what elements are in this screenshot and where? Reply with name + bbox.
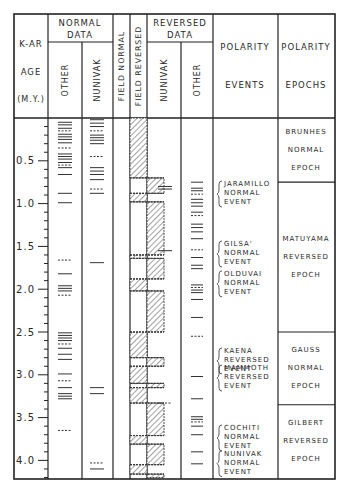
field-normal-interval [130, 366, 147, 383]
polarity-event: COCHITINORMALEVENT [217, 424, 260, 451]
svg-text:NUNIVAK: NUNIVAK [93, 59, 102, 102]
epoch-label: REVERSED [283, 437, 329, 445]
field-reversed-header: FIELD REVERSED [134, 26, 143, 106]
svg-text:EVENTS: EVENTS [225, 80, 265, 90]
event-label: MAMMOTH [224, 364, 269, 372]
event-label: REVERSED [224, 373, 270, 381]
polarity-event: JARAMILLONORMALEVENT [217, 180, 270, 207]
event-label: NUNIVAK [224, 450, 262, 458]
event-label: NORMAL [224, 459, 260, 467]
field-reversed-interval [147, 358, 164, 367]
svg-text:K-AR: K-AR [19, 39, 42, 49]
polarity-timescale-diagram: K-AR AGE (M.Y.) NORMAL DATA OTHER NUNIVA… [0, 0, 350, 495]
polarity-epochs: BRUNHESNORMALEPOCHMATUYAMAREVERSEDEPOCHG… [278, 128, 335, 463]
field-reversed-interval [147, 383, 164, 387]
field-reversed-interval [147, 178, 164, 193]
axis-tick-label: 1.0 [16, 198, 35, 209]
field-reversed-interval [147, 444, 164, 465]
brace-icon [217, 181, 222, 207]
event-label: EVENT [224, 288, 252, 296]
axis-tick-label: 3.5 [16, 412, 35, 423]
field-normal-interval [130, 255, 147, 258]
brace-icon [217, 425, 222, 451]
polarity-event: OLDUVAINORMALEVENT [217, 270, 262, 297]
polarity-events: JARAMILLONORMALEVENTGILSA'NORMALEVENTOLD… [217, 180, 270, 477]
brace-icon [217, 348, 222, 374]
polarity-event: GILSA'NORMALEVENT [217, 240, 260, 267]
polarity-epochs-header: POLARITY EPOCHS [281, 42, 330, 90]
field-reversed-interval [147, 474, 164, 477]
brace-icon [217, 365, 222, 391]
polarity-epoch: GILBERTREVERSEDEPOCH [283, 419, 329, 463]
epoch-label: GAUSS [291, 346, 320, 354]
brace-icon [217, 271, 222, 297]
age-column-header: K-AR AGE (M.Y.) [17, 39, 45, 104]
event-label: EVENT [224, 382, 252, 390]
svg-text:DATA: DATA [167, 30, 193, 40]
axis-tick-label: 2.0 [16, 284, 35, 295]
svg-text:OTHER: OTHER [61, 64, 70, 97]
svg-text:AGE: AGE [21, 67, 42, 77]
axis-tick-label: 3.0 [16, 369, 35, 380]
field-normal-header: FIELD NORMAL [117, 31, 126, 101]
field-normal-interval [130, 388, 147, 403]
epoch-label: EPOCH [291, 382, 320, 390]
axis-tick-label: 2.5 [16, 327, 35, 338]
field-reversed-interval [147, 291, 164, 332]
field-reversed-interval [147, 258, 164, 279]
event-label: COCHITI [224, 424, 260, 432]
age-axis: 0.51.01.52.02.53.03.54.0 [16, 127, 48, 478]
polarity-event: NUNIVAKNORMALEVENT [217, 450, 262, 477]
svg-text:POLARITY: POLARITY [220, 42, 269, 52]
svg-text:NORMAL: NORMAL [59, 18, 102, 28]
event-label: REVERSED [224, 356, 270, 364]
polarity-events-header: POLARITY EVENTS [220, 42, 269, 90]
epoch-label: GILBERT [288, 419, 324, 427]
axis-tick-label: 1.5 [16, 241, 35, 252]
epoch-label: NORMAL [288, 364, 324, 372]
polarity-event: MAMMOTHREVERSEDEVENT [217, 364, 270, 391]
field-normal-interval [130, 193, 147, 202]
axis-tick-label: 4.0 [16, 455, 35, 466]
field-polarity-bars [130, 118, 164, 478]
polarity-epoch: GAUSSNORMALEPOCH [288, 346, 324, 390]
polarity-epoch: BRUNHESNORMALEPOCH [285, 128, 326, 172]
epoch-label: REVERSED [283, 253, 329, 261]
event-label: NORMAL [224, 189, 260, 197]
event-label: NORMAL [224, 279, 260, 287]
event-label: GILSA' [224, 240, 253, 248]
epoch-label: MATUYAMA [282, 235, 329, 243]
field-reversed-interval [147, 202, 164, 255]
epoch-label: EPOCH [291, 271, 320, 279]
event-label: NORMAL [224, 433, 260, 441]
event-label: EVENT [224, 468, 252, 476]
axis-tick-label: 0.5 [16, 155, 35, 166]
polarity-epoch: MATUYAMAREVERSEDEPOCH [282, 235, 329, 279]
normal-data-header: NORMAL DATA OTHER NUNIVAK [59, 18, 102, 101]
brace-icon [217, 451, 222, 477]
svg-text:POLARITY: POLARITY [281, 42, 330, 52]
field-normal-interval [130, 279, 147, 291]
svg-text:OTHER: OTHER [193, 64, 202, 97]
field-reversed-interval [147, 403, 164, 436]
event-label: KAENA [224, 347, 253, 355]
epoch-label: EPOCH [291, 164, 320, 172]
event-label: JARAMILLO [223, 180, 270, 188]
epoch-label: BRUNHES [285, 128, 326, 136]
reversed-data-header: REVERSED DATA NUNIVAK OTHER [153, 18, 207, 101]
svg-text:NUNIVAK: NUNIVAK [160, 59, 169, 102]
field-normal-interval [130, 118, 147, 178]
event-label: EVENT [224, 198, 252, 206]
svg-text:DATA: DATA [67, 30, 93, 40]
epoch-label: NORMAL [288, 146, 324, 154]
epoch-label: EPOCH [291, 455, 320, 463]
event-label: NORMAL [224, 249, 260, 257]
field-normal-interval [130, 465, 147, 474]
svg-text:EPOCHS: EPOCHS [286, 80, 327, 90]
field-normal-interval [130, 332, 147, 358]
svg-text:(M.Y.): (M.Y.) [17, 95, 45, 104]
event-label: OLDUVAI [224, 270, 262, 278]
field-normal-interval [130, 436, 147, 445]
brace-icon [217, 241, 222, 267]
svg-text:REVERSED: REVERSED [153, 18, 207, 28]
